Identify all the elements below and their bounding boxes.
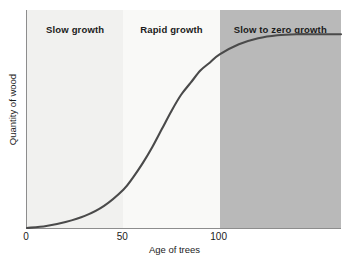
x-axis-title: Age of trees (0, 244, 349, 255)
y-axis-title: Quantity of wood (7, 35, 18, 185)
growth-curve-svg (27, 10, 341, 228)
x-tick-label-50: 50 (117, 231, 128, 242)
growth-curve-line (27, 34, 341, 228)
x-tick-label-0: 0 (23, 231, 29, 242)
growth-curve-figure: Slow growth Rapid growth Slow to zero gr… (0, 0, 349, 259)
x-tick-label-100: 100 (210, 231, 227, 242)
plot-area: Slow growth Rapid growth Slow to zero gr… (26, 10, 341, 229)
